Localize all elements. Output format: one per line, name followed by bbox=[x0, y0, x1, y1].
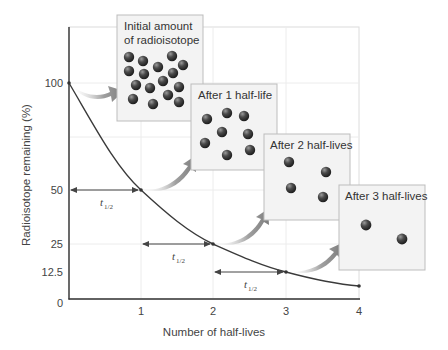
panel-initial-title-line2: of radioisotope bbox=[124, 34, 199, 46]
half-life-subscript: 1/2 bbox=[104, 203, 113, 211]
y-axis-label: Radioisotope remaining (%) bbox=[20, 104, 32, 246]
y-tick-100: 100 bbox=[45, 77, 63, 89]
panel-3-title: After 3 half-lives bbox=[345, 190, 428, 202]
x-axis-ticks: 1 2 3 4 bbox=[138, 305, 362, 317]
x-tick-4: 4 bbox=[356, 305, 362, 317]
half-life-chart: 100 50 25 12.5 0 1 2 3 4 Number of half-… bbox=[0, 0, 448, 350]
y-tick-0: 0 bbox=[57, 297, 63, 309]
panel-initial: Initial amount of radioisotope bbox=[117, 15, 203, 121]
y-tick-12-5: 12.5 bbox=[42, 266, 63, 278]
y-axis-ticks: 100 50 25 12.5 0 bbox=[42, 77, 63, 309]
panel-2-title: After 2 half-lives bbox=[270, 139, 353, 151]
half-life-interval-3: t 1/2 bbox=[215, 272, 283, 293]
half-life-interval-1: t 1/2 bbox=[71, 190, 138, 211]
x-tick-1: 1 bbox=[138, 305, 144, 317]
panel-1-title: After 1 half-life bbox=[198, 89, 272, 101]
curved-arrow-1 bbox=[145, 156, 196, 191]
x-axis-label: Number of half-lives bbox=[163, 326, 266, 338]
half-life-subscript: 1/2 bbox=[248, 285, 257, 293]
curved-arrow-3 bbox=[290, 243, 342, 273]
y-tick-25: 25 bbox=[51, 238, 63, 250]
x-tick-2: 2 bbox=[210, 305, 216, 317]
curved-arrow-0 bbox=[72, 86, 124, 102]
curved-arrow-2 bbox=[217, 209, 269, 245]
half-life-subscript: 1/2 bbox=[176, 257, 185, 265]
panel-after-3-half-lives: After 3 half-lives bbox=[339, 185, 428, 270]
half-life-interval-2: t 1/2 bbox=[143, 244, 210, 265]
x-tick-3: 3 bbox=[283, 305, 289, 317]
y-tick-50: 50 bbox=[51, 184, 63, 196]
panel-initial-title-line1: Initial amount bbox=[124, 20, 193, 32]
